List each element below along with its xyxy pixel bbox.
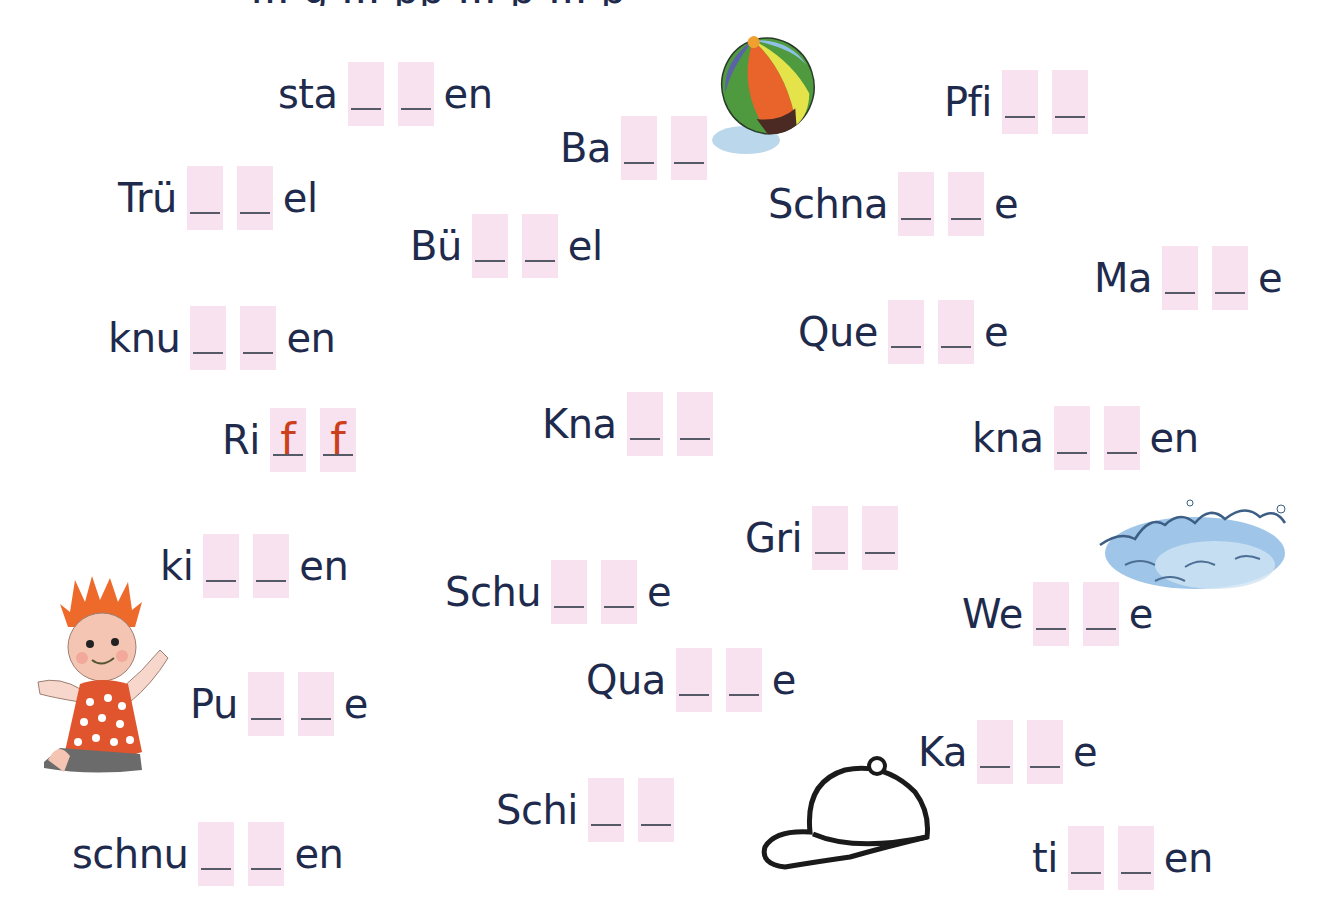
letter-fill: f <box>270 412 306 468</box>
letter-box[interactable] <box>671 116 707 180</box>
word-prefix: Que <box>798 300 878 364</box>
letter-box[interactable] <box>1054 406 1090 470</box>
letter-box[interactable] <box>187 166 223 230</box>
letter-box[interactable] <box>298 672 334 736</box>
word-item: Schna e <box>768 172 1018 236</box>
word-prefix: We <box>962 582 1023 646</box>
waves-icon <box>1095 495 1290 595</box>
word-prefix: Gri <box>745 506 802 570</box>
letter-box[interactable] <box>248 672 284 736</box>
word-item: Schi <box>496 778 674 842</box>
word-item: Qua e <box>586 648 796 712</box>
letter-box[interactable] <box>621 116 657 180</box>
letter-box[interactable] <box>1033 582 1069 646</box>
letter-box[interactable] <box>1104 406 1140 470</box>
blank-line <box>273 454 303 456</box>
letter-box[interactable] <box>240 306 276 370</box>
letter-box[interactable] <box>203 534 239 598</box>
letter-box[interactable] <box>977 720 1013 784</box>
letter-box[interactable] <box>898 172 934 236</box>
blank-line <box>680 438 710 440</box>
blank-line <box>193 352 223 354</box>
letter-box[interactable] <box>398 62 434 126</box>
blank-line <box>243 352 273 354</box>
letter-box[interactable] <box>1162 246 1198 310</box>
letter-box[interactable] <box>198 822 234 886</box>
letter-box[interactable] <box>726 648 762 712</box>
letter-box[interactable] <box>1118 826 1154 890</box>
word-suffix: e <box>984 300 1008 364</box>
blank-line <box>1215 292 1245 294</box>
letter-box[interactable] <box>812 506 848 570</box>
letter-box-filled[interactable]: f <box>270 408 306 472</box>
word-prefix: Trü <box>118 166 177 230</box>
word-suffix: el <box>283 166 318 230</box>
word-prefix: ki <box>160 534 193 598</box>
letter-box[interactable] <box>253 534 289 598</box>
letter-box[interactable] <box>938 300 974 364</box>
word-prefix: schnu <box>72 822 188 886</box>
letter-box[interactable] <box>627 392 663 456</box>
letter-box[interactable] <box>588 778 624 842</box>
blank-line <box>1005 116 1035 118</box>
word-prefix: Schna <box>768 172 888 236</box>
letter-box-filled[interactable]: f <box>320 408 356 472</box>
letter-box[interactable] <box>551 560 587 624</box>
example-word-item: Ri f f <box>222 408 356 472</box>
word-item: Ka e <box>918 720 1097 784</box>
word-prefix: kna <box>972 406 1044 470</box>
cut-off-heading: … g … pp … p … p <box>250 0 1090 6</box>
blank-line <box>951 218 981 220</box>
blank-line <box>401 108 431 110</box>
word-item: Pfi <box>944 70 1088 134</box>
word-item: We e <box>962 582 1153 646</box>
letter-box[interactable] <box>676 648 712 712</box>
letter-box[interactable] <box>1027 720 1063 784</box>
word-prefix: Pu <box>190 672 238 736</box>
blank-line <box>980 766 1010 768</box>
word-item: sta en <box>278 62 493 126</box>
letter-box[interactable] <box>601 560 637 624</box>
letter-box[interactable] <box>948 172 984 236</box>
blank-line <box>256 580 286 582</box>
letter-box[interactable] <box>522 214 558 278</box>
blank-line <box>815 552 845 554</box>
letter-box[interactable] <box>1212 246 1248 310</box>
word-prefix: Kna <box>542 392 617 456</box>
blank-line <box>591 824 621 826</box>
word-item: Gri <box>745 506 898 570</box>
word-prefix: sta <box>278 62 338 126</box>
blank-line <box>1107 452 1137 454</box>
letter-box[interactable] <box>1052 70 1088 134</box>
blank-line <box>554 606 584 608</box>
blank-line <box>630 438 660 440</box>
letter-box[interactable] <box>190 306 226 370</box>
blank-line <box>1057 452 1087 454</box>
blank-line <box>251 718 281 720</box>
word-suffix: e <box>647 560 671 624</box>
letter-box[interactable] <box>1002 70 1038 134</box>
blank-line <box>1036 628 1066 630</box>
letter-box[interactable] <box>638 778 674 842</box>
letter-box[interactable] <box>862 506 898 570</box>
letter-box[interactable] <box>472 214 508 278</box>
doll-icon <box>30 572 175 777</box>
word-suffix: en <box>444 62 493 126</box>
letter-box[interactable] <box>348 62 384 126</box>
blank-line <box>201 868 231 870</box>
blank-line <box>729 694 759 696</box>
beach-ball-icon <box>712 28 822 158</box>
letter-box[interactable] <box>677 392 713 456</box>
letter-box[interactable] <box>1068 826 1104 890</box>
blank-line <box>1086 628 1116 630</box>
word-item: Bü el <box>410 214 603 278</box>
word-suffix: e <box>994 172 1018 236</box>
word-prefix: Schu <box>445 560 541 624</box>
letter-box[interactable] <box>248 822 284 886</box>
letter-box[interactable] <box>1083 582 1119 646</box>
word-prefix: Pfi <box>944 70 992 134</box>
letter-box[interactable] <box>888 300 924 364</box>
letter-box[interactable] <box>237 166 273 230</box>
blank-line <box>301 718 331 720</box>
word-suffix: en <box>299 534 348 598</box>
